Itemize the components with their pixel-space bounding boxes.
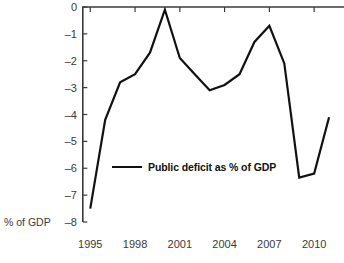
legend-line-swatch bbox=[112, 166, 142, 168]
y-tick-label: –7 bbox=[44, 190, 77, 200]
y-tick-label: –4 bbox=[44, 110, 77, 120]
y-tick-label: –5 bbox=[44, 136, 77, 146]
line-chart: 0–1–2–3–4–5–6–7–8 1995199820012004200720… bbox=[0, 0, 344, 263]
legend-label: Public deficit as % of GDP bbox=[148, 161, 276, 173]
x-axis-tick-labels: 199519982001200420072010 bbox=[0, 238, 344, 254]
x-tick-label: 2004 bbox=[212, 238, 236, 250]
x-tick-label: 2001 bbox=[168, 238, 192, 250]
data-series-public-deficit bbox=[90, 10, 329, 209]
x-tick-label: 1995 bbox=[78, 238, 102, 250]
x-tick-label: 1998 bbox=[123, 238, 147, 250]
y-tick-label: –3 bbox=[44, 83, 77, 93]
chart-legend: Public deficit as % of GDP bbox=[112, 161, 276, 173]
y-tick-label: –1 bbox=[44, 29, 77, 39]
y-axis-title: % of GDP bbox=[4, 216, 51, 228]
y-tick-label: –6 bbox=[44, 163, 77, 173]
x-tick-label: 2010 bbox=[302, 238, 326, 250]
y-tick-label: 0 bbox=[44, 2, 77, 12]
x-tick-label: 2007 bbox=[257, 238, 281, 250]
y-tick-label: –2 bbox=[44, 56, 77, 66]
